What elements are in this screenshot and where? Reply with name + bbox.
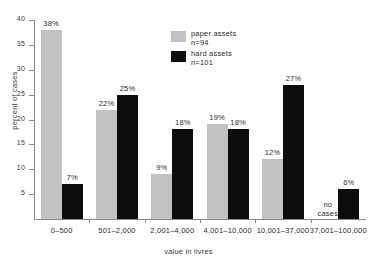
y-axis-tick-label: 5 xyxy=(0,189,25,196)
bar-value-label: 9% xyxy=(156,163,167,172)
bar-hard-assets[interactable]: 18% xyxy=(228,129,249,219)
legend-label: hard assetsn=101 xyxy=(191,49,232,67)
x-axis-tick-mark xyxy=(311,219,312,223)
y-axis-tick-label: 35 xyxy=(0,40,25,47)
x-axis-tick-mark xyxy=(145,219,146,223)
no-cases-annotation: nocases xyxy=(318,200,339,218)
bar-value-label: 7% xyxy=(67,173,78,182)
bar-value-label: 6% xyxy=(343,178,354,187)
legend-label: paper assetsn=94 xyxy=(191,29,236,47)
legend-series-name: paper assets xyxy=(191,29,236,38)
bar-value-label: 18% xyxy=(230,118,246,127)
bar-value-label: 22% xyxy=(99,99,115,108)
y-axis-tick-label: 40 xyxy=(0,15,25,22)
x-axis-category-label: 37,001–100,000 xyxy=(310,226,367,235)
bar-group: nocases6% xyxy=(317,20,359,219)
bar-paper-assets[interactable]: 9% xyxy=(151,174,172,219)
bar-paper-assets[interactable]: 12% xyxy=(262,159,283,219)
bar-hard-assets[interactable]: 7% xyxy=(62,184,83,219)
bar-hard-assets[interactable]: 6% xyxy=(338,189,359,219)
x-axis-category-label: 10,001–37,000 xyxy=(257,226,310,235)
legend-series-name: hard assets xyxy=(191,49,232,58)
bar-value-label: 18% xyxy=(175,118,191,127)
x-axis-category-label: 2,001–4,000 xyxy=(150,226,194,235)
x-axis-category-label: 0–500 xyxy=(51,226,73,235)
x-axis-title: value in livres xyxy=(0,247,377,256)
bar-value-label: 19% xyxy=(209,113,225,122)
bar-value-label: 12% xyxy=(265,148,281,157)
bar-value-label: 38% xyxy=(43,19,59,28)
legend-swatch-hard-assets xyxy=(171,51,186,62)
bar-group: 22%25% xyxy=(96,20,138,219)
chart-figure: 510152025303540 percent of cases 38%7%22… xyxy=(0,0,377,268)
y-axis-tick-label: 10 xyxy=(0,164,25,171)
legend-swatch-paper-assets xyxy=(171,31,186,42)
bar-value-label: 27% xyxy=(286,74,302,83)
bar-group: 12%27% xyxy=(262,20,304,219)
legend-series-count: n=94 xyxy=(191,38,236,47)
bar-group: 9%18% xyxy=(151,20,193,219)
x-axis-category-label: 501–2,000 xyxy=(98,226,135,235)
bar-hard-assets[interactable]: 18% xyxy=(172,129,193,219)
x-axis-tick-mark xyxy=(255,219,256,223)
y-axis-title: percent of cases xyxy=(10,51,19,151)
bar-paper-assets[interactable]: 19% xyxy=(207,124,228,219)
x-axis-category-label: 4,001–10,000 xyxy=(204,226,252,235)
bar-hard-assets[interactable]: 27% xyxy=(283,85,304,219)
x-axis-tick-mark xyxy=(200,219,201,223)
bar-paper-assets[interactable]: 38% xyxy=(41,30,62,219)
bar-hard-assets[interactable]: 25% xyxy=(117,95,138,219)
x-axis-tick-mark xyxy=(89,219,90,223)
bar-group: 38%7% xyxy=(41,20,83,219)
bar-paper-assets[interactable]: 22% xyxy=(96,110,117,219)
legend-series-count: n=101 xyxy=(191,58,232,67)
bar-value-label: 25% xyxy=(120,84,136,93)
